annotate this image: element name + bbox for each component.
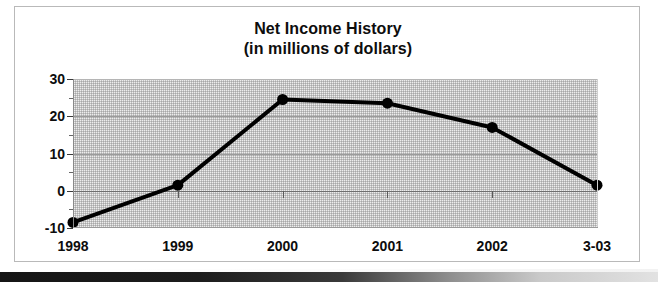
data-point-1999 xyxy=(172,180,183,191)
x-axis-label-2002: 2002 xyxy=(477,239,508,253)
figure-root: Net Income History (in millions of dolla… xyxy=(0,0,658,282)
series-polyline xyxy=(73,99,597,222)
y-axis-label-10: 10 xyxy=(49,147,65,161)
x-axis-label-2001: 2001 xyxy=(372,239,403,253)
chart-title-block: Net Income History (in millions of dolla… xyxy=(15,19,641,59)
plot-border-bottom xyxy=(73,227,598,228)
data-point-2001 xyxy=(382,98,393,109)
y-axis-label-30: 30 xyxy=(49,72,65,86)
page-edge-artifact xyxy=(0,272,658,282)
y-axis-label-20: 20 xyxy=(49,109,65,123)
plot-border-top xyxy=(73,79,598,80)
y-axis-label--10: -10 xyxy=(45,221,65,235)
plot-border-right xyxy=(597,79,598,228)
data-point-2000 xyxy=(277,94,288,105)
x-axis-label-2000: 2000 xyxy=(267,239,298,253)
chart-title-line-1: Net Income History xyxy=(15,19,641,39)
series-markers xyxy=(68,94,603,228)
y-axis-label-0: 0 xyxy=(57,184,65,198)
data-series-line xyxy=(73,79,598,228)
plot-border-left xyxy=(73,79,74,228)
x-axis-label-3-03: 3-03 xyxy=(583,239,611,253)
y-tick--10 xyxy=(67,228,73,229)
chart-frame: Net Income History (in millions of dolla… xyxy=(14,6,640,262)
data-point-2002 xyxy=(487,122,498,133)
plot-area: 3020100-10 199819992000200120023-03 xyxy=(73,79,598,228)
x-axis-label-1999: 1999 xyxy=(162,239,193,253)
chart-title-line-2: (in millions of dollars) xyxy=(15,39,641,59)
x-axis-label-1998: 1998 xyxy=(57,239,88,253)
